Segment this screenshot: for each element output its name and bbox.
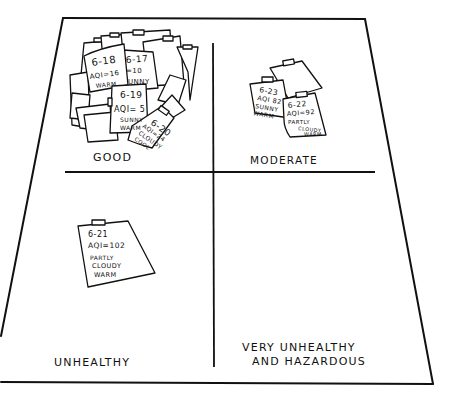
board-frame bbox=[1, 18, 433, 384]
card-6-21-weather-1: PARTLY bbox=[90, 254, 114, 261]
quadrant-label-unhealthy: UNHEALTHY bbox=[54, 356, 130, 369]
air-quality-board: 6-18 AQI=16 WARM 6-17 =10 UNNY 6-19 AQI=… bbox=[0, 0, 451, 412]
card-6-19-weather-1: SUNNY bbox=[120, 116, 143, 123]
quadrant-label-good: GOOD bbox=[93, 151, 132, 164]
vertical-divider bbox=[213, 43, 214, 367]
card-6-21-weather-3: WARM bbox=[94, 271, 117, 279]
card-6-21-weather-2: CLOUDY bbox=[92, 262, 121, 270]
card-6-19-aqi: AQI= 5 bbox=[114, 105, 145, 114]
quadrant-label-very-unhealthy-line1: VERY UNHEALTHY bbox=[242, 341, 356, 354]
card-6-17-aqi: =10 bbox=[126, 67, 142, 75]
card-6-19-date: 6-19 bbox=[120, 90, 142, 100]
card-6-17-weather: UNNY bbox=[128, 78, 150, 86]
card-6-19-weather-2: WARM bbox=[120, 124, 141, 131]
card-6-21-date: 6-21 bbox=[88, 230, 108, 239]
quadrant-label-very-unhealthy-line2: AND HAZARDOUS bbox=[252, 355, 366, 368]
card-6-22-weather-1: PARTLY bbox=[288, 119, 310, 125]
card-6-21-aqi: AQI=102 bbox=[88, 241, 125, 250]
card-6-22-weather-3: WARM bbox=[304, 131, 322, 137]
card-6-17-date: 6-17 bbox=[125, 53, 148, 65]
quadrant-label-moderate: MODERATE bbox=[250, 154, 318, 167]
